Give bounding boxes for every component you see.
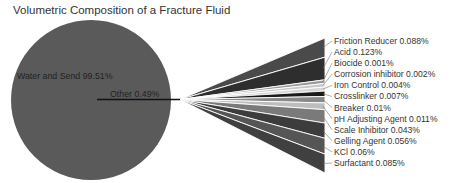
label-crosslinker: Crosslinker 0.007% — [334, 91, 409, 101]
label-acid: Acid 0.123% — [334, 47, 383, 57]
label-breaker: Breaker 0.01% — [334, 103, 391, 113]
pie-of-pie-chart: Water and Send 99.51%Other 0.49% Frictio… — [0, 0, 450, 183]
label-surfactant: Surfactant 0.085% — [334, 158, 405, 168]
label-iron-control: Iron Control 0.004% — [334, 80, 411, 90]
label-corrosion-inhibitor: Corrosion inhibitor 0.002% — [334, 69, 436, 79]
label-scale-inhibitor: Scale Inhibitor 0.043% — [334, 125, 420, 135]
label-water-and-sand: Water and Send 99.51% — [17, 71, 113, 81]
main-pie: Water and Send 99.51%Other 0.49% — [11, 20, 183, 180]
label-kcl: KCl 0.06% — [334, 147, 375, 157]
label-gelling-agent: Gelling Agent 0.056% — [334, 136, 417, 146]
label-friction-reducer: Friction Reducer 0.088% — [334, 36, 429, 46]
breakout-fan — [180, 38, 325, 173]
label-biocide: Biocide 0.001% — [334, 58, 394, 68]
label-other: Other 0.49% — [110, 89, 160, 99]
data-labels: Friction Reducer 0.088%Acid 0.123%Biocid… — [334, 36, 438, 168]
label-ph-adjusting-agent: pH Adjusting Agent 0.011% — [334, 114, 438, 124]
